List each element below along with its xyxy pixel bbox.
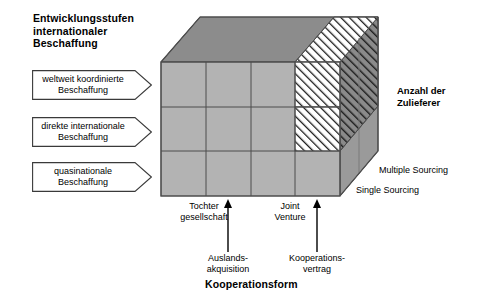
stage-arrow-label: weltweit koordinierte Beschaffung: [32, 70, 134, 100]
stage-arrow-direkte[interactable]: direkte internationale Beschaffung: [32, 117, 152, 147]
label-multiple-sourcing: Multiple Sourcing: [379, 165, 448, 176]
stage-arrow-label: direkte internationale Beschaffung: [32, 117, 134, 147]
stage-arrow-quasinationale[interactable]: quasinationale Beschaffung: [32, 162, 152, 192]
page-title: Entwicklungsstufen internationaler Besch…: [33, 12, 134, 50]
x-label-tochtergesellschaft: Tochter gesellschaft: [156, 201, 252, 224]
x-label-joint-venture: Joint Venture: [242, 201, 338, 224]
highlight-front-cell-row1: [295, 62, 340, 107]
stage-arrow-label: quasinationale Beschaffung: [32, 162, 134, 192]
stage-arrow-weltweit[interactable]: weltweit koordinierte Beschaffung: [32, 70, 152, 100]
bottom-axis-title: Kooperationsform: [205, 278, 298, 290]
label-single-sourcing: Single Sourcing: [356, 185, 419, 196]
right-axis-label: Anzahl der Zulieferer: [397, 85, 446, 109]
x-label-kooperationsvertrag: Kooperations- vertrag: [269, 253, 365, 276]
x-label-auslandsakquisition: Auslands- akquisition: [180, 253, 276, 276]
highlight-front-cell-row2: [295, 107, 340, 151]
diagram-canvas: Entwicklungsstufen internationaler Besch…: [0, 0, 477, 294]
